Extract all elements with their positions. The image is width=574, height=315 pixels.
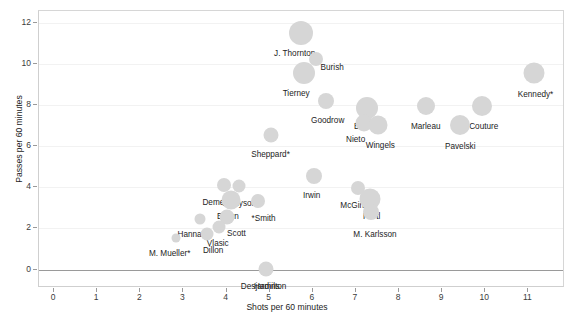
x-tick-label: 11 [523,292,532,302]
x-axis-label: Shots per 60 minutes [0,302,574,312]
y-axis-label: Passes per 60 minutes [14,64,24,214]
x-tick-mark [182,288,183,292]
x-tick-mark [355,288,356,292]
x-tick-mark [96,288,97,292]
x-tick-mark [139,288,140,292]
x-tick-mark [226,288,227,292]
x-tick-label: 7 [353,292,358,302]
x-tick-label: 2 [137,292,142,302]
x-tick-label: 4 [223,292,228,302]
x-tick-mark [398,288,399,292]
x-tick-label: 9 [439,292,444,302]
x-tick-label: 6 [309,292,314,302]
x-tick-label: 10 [480,292,489,302]
x-tick-mark [269,288,270,292]
x-tick-label: 5 [266,292,271,302]
x-tick-mark [53,288,54,292]
x-tick-mark [484,288,485,292]
x-tick-mark [312,288,313,292]
x-tick-label: 0 [51,292,56,302]
x-tick-label: 1 [94,292,99,302]
x-tick-label: 3 [180,292,185,302]
x-axis: 01234567891011 [0,0,574,315]
x-tick-label: 8 [396,292,401,302]
x-tick-mark [527,288,528,292]
x-tick-mark [441,288,442,292]
scatter-chart: J. ThorntonBurishTierneyGoodrowBurnsNiet… [0,0,574,315]
